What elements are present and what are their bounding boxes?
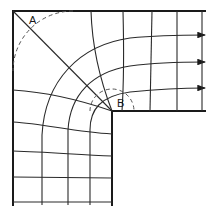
label-a: A [29,14,37,26]
inner-corner-wall [112,111,205,205]
flow-net-diagram: A B [0,0,220,216]
label-b: B [117,97,124,109]
